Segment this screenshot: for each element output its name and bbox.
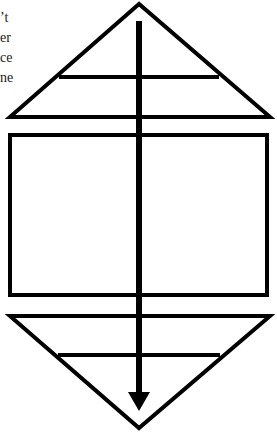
down-arrow-icon	[128, 21, 150, 411]
diamond-arrow-diagram	[0, 0, 277, 434]
